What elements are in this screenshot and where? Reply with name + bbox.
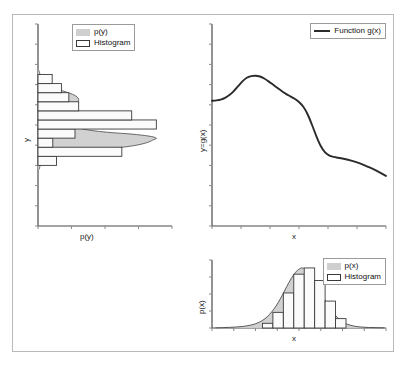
px-histogram-bar [283, 293, 293, 328]
legend-px[interactable]: p(x) Histogram [323, 258, 386, 285]
py-histogram-bar [38, 102, 79, 111]
legend-label-histogram: Histogram [94, 38, 130, 48]
panel-py-plot [20, 20, 180, 250]
py-histogram-bar [38, 75, 52, 84]
line-swatch-icon [314, 30, 330, 32]
axis-label-py-x: p(y) [80, 232, 94, 241]
py-histogram-bar [38, 84, 61, 93]
legend-item-py[interactable]: p(y) [76, 27, 130, 37]
legend-label-py: p(y) [94, 27, 108, 37]
py-histogram-bar [38, 120, 156, 129]
px-histogram-bar [262, 323, 272, 328]
legend-item-function[interactable]: Function g(x) [314, 26, 381, 36]
px-histogram-bar [304, 268, 314, 328]
py-histogram-bar [38, 93, 69, 102]
axis-label-function-x: x [292, 232, 296, 241]
legend-label-histogram: Histogram [345, 272, 381, 282]
legend-item-histogram[interactable]: Histogram [76, 38, 130, 48]
py-histogram-bars [38, 75, 156, 166]
function-gx-curve [212, 76, 386, 176]
py-histogram-bar [38, 156, 56, 165]
panel-py: p(y) Histogram p(y) y [20, 20, 180, 250]
axis-label-px-x: x [292, 334, 296, 343]
legend-py[interactable]: p(y) Histogram [72, 24, 135, 51]
px-histogram-bar [315, 280, 325, 328]
legend-item-histogram[interactable]: Histogram [327, 272, 381, 282]
legend-label-function: Function g(x) [334, 26, 381, 36]
panel-px: p(x) Histogram x p(x) [196, 256, 388, 348]
py-histogram-bar [38, 147, 122, 156]
px-histogram-bar [336, 319, 346, 328]
py-histogram-bar [38, 138, 53, 147]
py-histogram-bar [38, 111, 132, 120]
figure-root: p(y) Histogram p(y) y Function g(x) x y=… [0, 0, 408, 372]
panel-function: Function g(x) x y=g(x) [196, 20, 388, 250]
panel-function-plot [196, 20, 388, 250]
px-histogram-bar [325, 301, 335, 328]
px-histogram-bar [294, 274, 304, 328]
histogram-swatch-icon [76, 40, 90, 47]
axis-label-py-y: y [22, 138, 31, 142]
legend-function[interactable]: Function g(x) [310, 23, 386, 39]
axis-label-function-y: y=g(x) [198, 130, 207, 152]
density-swatch-icon [76, 29, 90, 36]
px-histogram-bar [273, 312, 283, 328]
histogram-swatch-icon [327, 274, 341, 281]
axis-label-px-y: p(x) [197, 300, 206, 314]
legend-label-px: p(x) [345, 261, 359, 271]
legend-item-px[interactable]: p(x) [327, 261, 381, 271]
py-histogram-bar [38, 129, 75, 138]
density-swatch-icon [327, 263, 341, 270]
